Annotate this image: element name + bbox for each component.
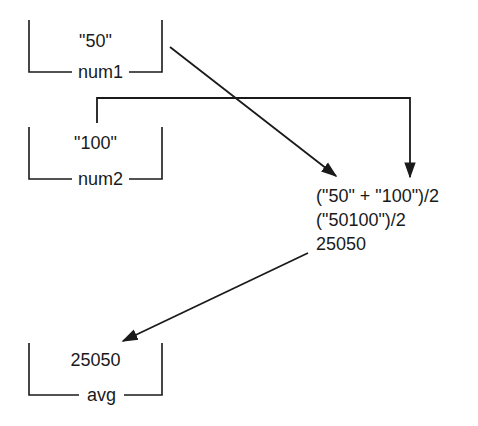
variable-label-num1: num1 xyxy=(72,62,129,82)
variable-value-num2: "100" xyxy=(29,133,162,153)
variable-label-avg: avg xyxy=(79,385,124,405)
expression-line-1: ("50" + "100")/2 xyxy=(316,184,439,208)
variable-value-num1: "50" xyxy=(29,31,162,51)
expression-line-2: ("50100")/2 xyxy=(316,208,439,232)
variable-label-num2: num2 xyxy=(72,169,129,189)
arrow-num1-to-expression xyxy=(170,47,336,176)
expression-evaluation: ("50" + "100")/2 ("50100")/2 25050 xyxy=(316,184,439,256)
variable-value-avg: 25050 xyxy=(29,350,162,370)
expression-line-3: 25050 xyxy=(316,232,439,256)
arrow-expression-to-avg xyxy=(123,253,308,341)
